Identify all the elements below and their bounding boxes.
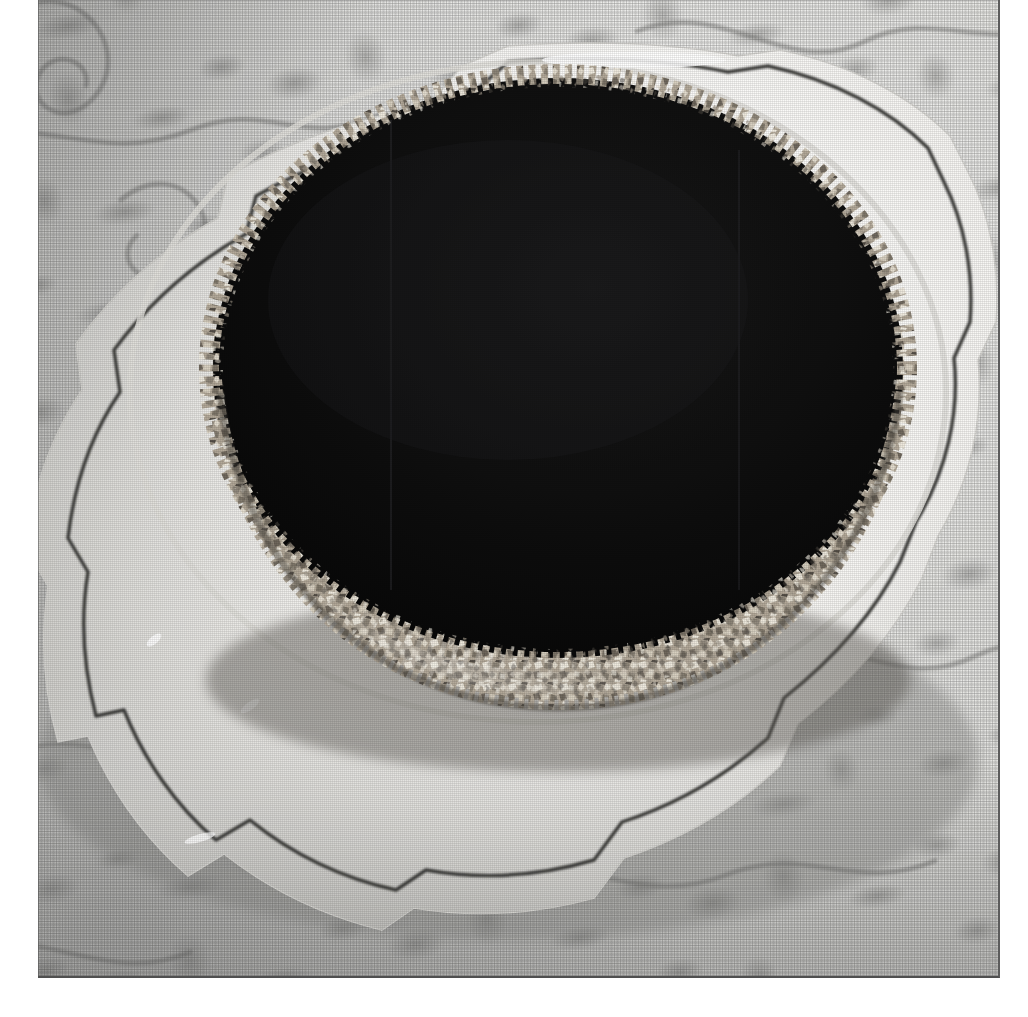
glaze-sheen-band xyxy=(738,150,740,590)
chocolate-torte xyxy=(38,0,1000,978)
photo-print: Chocolate glazed torte with chopped nut … xyxy=(0,0,1028,1017)
photograph-frame xyxy=(38,0,1000,978)
glaze-soft-sheen xyxy=(268,140,748,460)
